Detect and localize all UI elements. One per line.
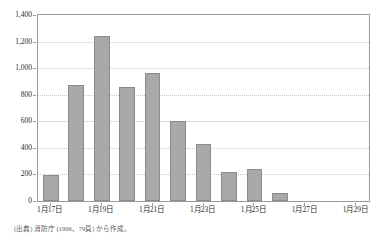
bar bbox=[145, 73, 161, 201]
y-axis-tick-label: 200 bbox=[21, 170, 32, 178]
bar bbox=[196, 144, 212, 201]
x-axis-tick-label: 1月21日 bbox=[139, 205, 164, 214]
x-axis-tick-mark bbox=[253, 203, 254, 206]
x-axis-tick-label: 1月23日 bbox=[190, 205, 215, 214]
y-axis-tick-mark bbox=[33, 201, 36, 202]
y-axis-tick-label: 800 bbox=[21, 91, 32, 99]
y-axis-tick-mark bbox=[33, 95, 36, 96]
y-axis-tick-label: 1,400 bbox=[15, 11, 32, 19]
bar bbox=[170, 121, 186, 201]
x-axis-tick-mark bbox=[355, 203, 356, 206]
y-axis-tick-mark bbox=[33, 68, 36, 69]
y-axis-tick-mark bbox=[33, 121, 36, 122]
x-axis-tick-label: 1月17日 bbox=[37, 205, 62, 214]
x-axis-tick-label: 1月19日 bbox=[88, 205, 113, 214]
y-axis: 02004006008001,0001,2001,400 bbox=[0, 14, 35, 202]
bar bbox=[272, 193, 288, 201]
bar-series bbox=[38, 15, 369, 201]
bar bbox=[94, 36, 110, 201]
x-axis-tick-mark bbox=[152, 203, 153, 206]
bar bbox=[221, 172, 237, 201]
x-axis-tick-label: 1月27日 bbox=[292, 205, 317, 214]
x-axis-tick-mark bbox=[101, 203, 102, 206]
y-axis-tick-mark bbox=[33, 148, 36, 149]
bar bbox=[43, 175, 59, 201]
x-axis-tick-label: 1月29日 bbox=[343, 205, 368, 214]
bar bbox=[68, 85, 84, 201]
figure-container: 02004006008001,0001,2001,400 1月17日1月19日1… bbox=[0, 0, 384, 245]
x-axis-tick-mark bbox=[203, 203, 204, 206]
y-axis-tick-label: 1,200 bbox=[15, 38, 32, 46]
y-axis-tick-label: 1,000 bbox=[15, 64, 32, 72]
bar bbox=[247, 169, 263, 201]
y-axis-tick-mark bbox=[33, 42, 36, 43]
y-axis-tick-label: 600 bbox=[21, 117, 32, 125]
y-axis-tick-label: 400 bbox=[21, 144, 32, 152]
y-axis-tick-mark bbox=[33, 174, 36, 175]
x-axis: 1月17日1月19日1月21日1月23日1月25日1月27日1月29日 bbox=[37, 203, 370, 219]
x-axis-tick-mark bbox=[304, 203, 305, 206]
plot-area bbox=[37, 14, 370, 202]
x-axis-tick-label: 1月25日 bbox=[241, 205, 266, 214]
x-axis-tick-mark bbox=[50, 203, 51, 206]
source-note: (出典) 消防庁 (1996、79頁) から作成。 bbox=[14, 224, 131, 234]
bar bbox=[119, 87, 135, 201]
y-axis-tick-label: 0 bbox=[28, 197, 32, 205]
y-axis-tick-mark bbox=[33, 15, 36, 16]
